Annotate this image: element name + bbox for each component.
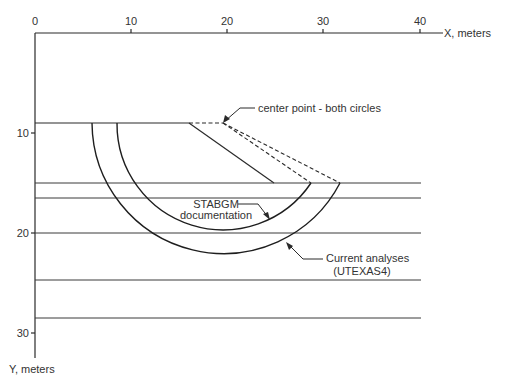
center-point-label: center point - both circles xyxy=(258,102,381,114)
x-tick-label: 0 xyxy=(32,15,38,27)
arrowhead-icon xyxy=(286,242,293,250)
x-tick-label: 40 xyxy=(414,15,426,27)
radius-inner-dashed xyxy=(223,123,311,183)
y-tick-label: 30 xyxy=(17,327,29,339)
current-analyses-leader xyxy=(289,245,323,259)
radius-outer-dashed xyxy=(223,123,340,183)
stabgm-label-line2: documentation xyxy=(180,209,252,221)
y-axis-label: Y, meters xyxy=(9,363,55,375)
slope-stability-diagram: 0 10 20 30 40 X, meters 10 20 30 Y, mete… xyxy=(0,0,507,388)
x-tick-label: 10 xyxy=(125,15,137,27)
current-analyses-label-line2: (UTEXAS4) xyxy=(333,265,390,277)
arrowhead-icon xyxy=(263,212,270,220)
current-analyses-label-line1: Current analyses xyxy=(326,252,410,264)
x-tick-label: 20 xyxy=(221,15,233,27)
y-tick-label: 20 xyxy=(17,227,29,239)
x-tick-label: 30 xyxy=(317,15,329,27)
y-tick-label: 10 xyxy=(17,127,29,139)
slope-face xyxy=(189,123,274,183)
x-axis-label: X, meters xyxy=(444,27,492,39)
arrowhead-icon xyxy=(223,115,230,123)
